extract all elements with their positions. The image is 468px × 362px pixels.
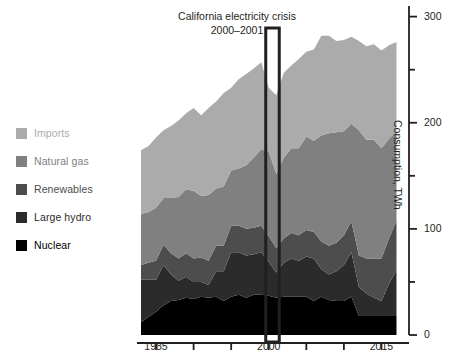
x-tick-label: 2015 <box>361 340 401 352</box>
y-tick-label: 200 <box>424 116 442 128</box>
y-axis-title: Consumption, TWh <box>392 120 404 210</box>
x-tick-label: 1985 <box>136 340 176 352</box>
chart-title-line1: California electricity crisis <box>152 9 322 23</box>
chart-title: California electricity crisis 2000–2001 <box>152 9 322 37</box>
chart-title-line2: 2000–2001 <box>152 23 322 37</box>
y-tick-label: 0 <box>424 328 430 340</box>
y-tick-label: 100 <box>424 222 442 234</box>
x-tick-label: 2000 <box>249 340 289 352</box>
chart-canvas: Imports Natural gas Renewables Large hyd… <box>0 0 468 362</box>
area-series-group <box>141 36 396 335</box>
y-tick-label: 300 <box>424 10 442 22</box>
